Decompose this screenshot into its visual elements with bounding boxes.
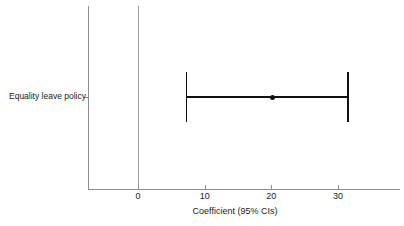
- x-axis-title-text: Coefficient (95% CIs): [193, 206, 278, 217]
- zero-reference-line: [138, 6, 139, 190]
- x-tick-label-10: 10: [185, 191, 225, 202]
- point-estimate-marker: [270, 95, 275, 100]
- x-axis-title: Coefficient (95% CIs): [0, 206, 404, 217]
- confidence-interval-line: [187, 96, 348, 98]
- x-tick-label-0: 0: [118, 191, 158, 202]
- confidence-interval-cap-upper: [347, 72, 349, 122]
- x-tick-mark-10: [205, 185, 206, 190]
- x-axis-spine: [88, 189, 400, 190]
- x-tick-label-20: 20: [251, 191, 291, 202]
- x-tick-mark-20: [271, 185, 272, 190]
- y-axis-category-label: Equality leave policy: [9, 91, 86, 102]
- x-tick-mark-30: [338, 185, 339, 190]
- x-tick-label-30: 30: [318, 191, 358, 202]
- x-tick-mark-0: [138, 185, 139, 190]
- confidence-interval-cap-lower: [186, 72, 188, 122]
- coefficient-forest-plot: Equality leave policy 0 10 20 30 Coeffic…: [0, 0, 404, 226]
- y-axis-spine: [88, 6, 89, 190]
